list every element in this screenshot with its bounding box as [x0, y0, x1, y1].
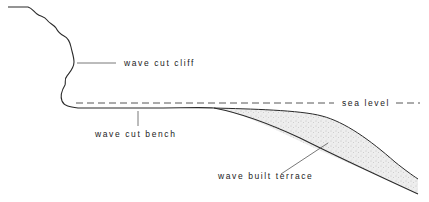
wave-built-terrace-label: wave built terrace [217, 171, 313, 181]
wave-cut-bench-label: wave cut bench [94, 129, 176, 139]
sea-level-label: sea level [342, 98, 390, 108]
coastal-profile-diagram: sea level wave cut cliff wave cut bench … [0, 0, 429, 202]
terrace-leader-line [281, 143, 328, 174]
wave-cut-cliff-label: wave cut cliff [123, 58, 195, 68]
